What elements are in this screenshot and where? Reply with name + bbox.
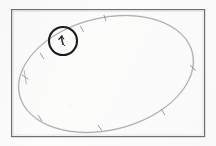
tick-mark	[81, 26, 84, 31]
tick-mark	[161, 109, 164, 114]
figure-border-inner-shade	[13, 11, 203, 135]
closed-orbit-curve	[6, 0, 206, 146]
figure-root: Scanned diagram: a thin rectangular fram…	[0, 0, 216, 146]
figure-canvas	[0, 0, 216, 146]
tick-mark	[98, 125, 102, 130]
tick-mark	[24, 70, 26, 84]
tick-mark	[40, 53, 43, 58]
point-marker-arrow-icon	[59, 36, 65, 46]
curve-sample-ticks	[22, 15, 196, 130]
